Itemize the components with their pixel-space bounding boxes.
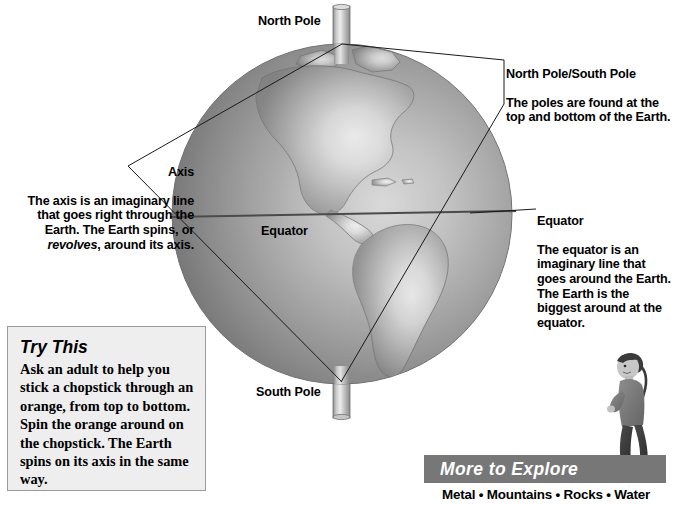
try-this-body: Ask an adult to help you stick a chopsti… bbox=[20, 360, 195, 489]
annotation-poles-heading: North Pole/South Pole bbox=[506, 67, 674, 82]
annotation-poles: North Pole/South Pole The poles are foun… bbox=[506, 52, 674, 140]
annotation-equator: Equator The equator is an imaginary line… bbox=[537, 199, 673, 345]
annotation-equator-body: The equator is an imaginary line that go… bbox=[537, 243, 673, 331]
more-to-explore-bar: More to Explore bbox=[424, 455, 666, 483]
annotation-axis-body: The axis is an imaginary line that goes … bbox=[6, 194, 194, 252]
try-this-title: Try This bbox=[20, 337, 195, 357]
annotation-axis-body-before: The axis is an imaginary line that goes … bbox=[28, 194, 194, 237]
annotation-equator-heading: Equator bbox=[537, 214, 673, 229]
annotation-axis-body-after: , around its axis. bbox=[97, 238, 194, 252]
annotation-axis-body-italic: revolves bbox=[47, 238, 97, 252]
label-equator: Equator bbox=[261, 224, 308, 238]
label-north-pole: North Pole bbox=[258, 14, 321, 28]
annotation-axis: Axis The axis is an imaginary line that … bbox=[6, 150, 194, 267]
annotation-axis-heading: Axis bbox=[6, 165, 194, 180]
more-to-explore-topics: Metal • Mountains • Rocks • Water bbox=[424, 487, 668, 502]
child-photo bbox=[596, 345, 658, 470]
try-this-box: Try This Ask an adult to help you stick … bbox=[7, 326, 206, 491]
more-to-explore-title: More to Explore bbox=[440, 459, 578, 479]
annotation-poles-body: The poles are found at the top and botto… bbox=[506, 96, 674, 125]
page-root: North Pole South Pole Equator Axis The a… bbox=[0, 0, 675, 505]
label-south-pole: South Pole bbox=[256, 385, 321, 399]
